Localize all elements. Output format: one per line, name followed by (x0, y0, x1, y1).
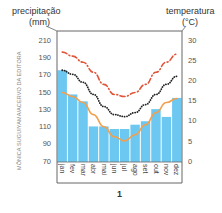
right-axis-tick: 5 (188, 137, 192, 146)
climate-chart: 2101901701501301109070302520151050janfev… (0, 0, 222, 213)
month-label: out (153, 164, 160, 174)
month-label: jan (58, 163, 66, 173)
left-axis-tick: 150 (38, 88, 51, 97)
left-axis-tick: 130 (38, 105, 51, 114)
figure-number: 1 (117, 189, 122, 199)
right-axis-tick: 30 (188, 36, 196, 45)
right-axis-tick: 20 (188, 76, 196, 85)
precipitation-bar (78, 101, 87, 162)
temperatura-máxima-line (62, 52, 177, 96)
month-label: ago (131, 164, 139, 176)
precipitation-bar (99, 126, 108, 162)
precipitation-bar (172, 98, 181, 162)
precipitation-bar (151, 109, 160, 162)
precipitation-bar (130, 125, 139, 162)
precipitation-bar (120, 129, 129, 162)
right-axis-tick: 15 (188, 96, 196, 105)
precipitation-bar (68, 94, 77, 162)
month-label: mar (80, 164, 87, 177)
month-label: abr (90, 164, 97, 175)
month-label: fev (69, 164, 76, 174)
precipitation-bar (89, 126, 98, 162)
left-axis-tick: 210 (38, 36, 51, 45)
month-label: jun (110, 163, 118, 173)
left-axis-tick: 190 (38, 53, 51, 62)
left-axis-tick: 90 (43, 139, 51, 148)
month-label: set (142, 164, 149, 173)
left-axis-tick: 70 (43, 157, 51, 166)
right-axis-tick: 0 (188, 157, 192, 166)
month-label: nov (163, 164, 170, 176)
left-axis-tick: 170 (38, 70, 51, 79)
precipitation-bar (58, 70, 67, 162)
month-label: mai (101, 164, 108, 176)
month-label: jul (120, 163, 128, 171)
precipitation-bar (162, 117, 171, 162)
right-axis-tick: 10 (188, 116, 196, 125)
month-label: dez (173, 164, 180, 176)
left-axis-tick: 110 (39, 122, 51, 131)
right-axis-tick: 25 (188, 56, 196, 65)
